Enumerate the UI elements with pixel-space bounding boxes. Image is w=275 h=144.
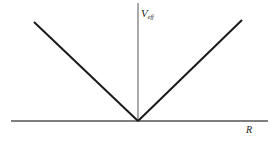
potential-left-branch xyxy=(34,22,138,121)
potential-diagram xyxy=(0,0,275,144)
potential-right-branch xyxy=(138,20,242,121)
y-axis-label-subscript: eff xyxy=(148,14,154,20)
y-axis-label-main: V xyxy=(141,7,148,19)
x-axis-label: R xyxy=(246,125,252,135)
y-axis-label: Veff xyxy=(141,8,154,20)
